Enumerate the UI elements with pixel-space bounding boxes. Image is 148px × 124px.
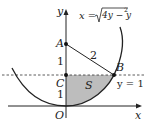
unit-label-lower: 1 bbox=[57, 89, 64, 100]
x-axis-arrow-icon bbox=[136, 104, 142, 109]
curve-label-exponent: 2 bbox=[124, 7, 128, 13]
unit-label-upper: 1 bbox=[57, 56, 64, 67]
line-y-equals-1-label: y = 1 bbox=[117, 79, 144, 89]
point-a-label: A bbox=[56, 38, 64, 49]
point-c bbox=[64, 73, 68, 77]
diagram-canvas: y x O x = 4y − y 2 A B C 2 1 1 S y = 1 bbox=[0, 0, 148, 124]
segment-ab-length: 2 bbox=[90, 50, 97, 61]
point-b-label: B bbox=[116, 62, 124, 73]
point-a bbox=[64, 42, 68, 46]
x-axis-label: x bbox=[135, 110, 141, 121]
y-axis-arrow-icon bbox=[64, 9, 69, 15]
origin-label: O bbox=[55, 110, 64, 121]
curve-label-lhs: x = bbox=[79, 11, 96, 21]
region-s-label: S bbox=[85, 80, 93, 91]
y-axis-label: y bbox=[57, 6, 63, 17]
